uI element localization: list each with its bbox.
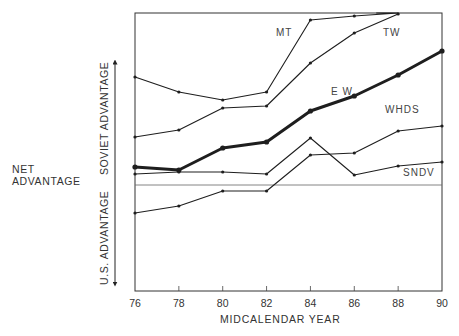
x-tick-label: 76 xyxy=(129,297,141,309)
data-point xyxy=(397,129,400,132)
data-point xyxy=(397,12,400,15)
x-ticks xyxy=(179,286,398,291)
data-point xyxy=(177,128,180,131)
data-point xyxy=(177,204,180,207)
data-point xyxy=(133,172,136,175)
data-point xyxy=(265,172,268,175)
series-label-mt: MT xyxy=(276,27,292,38)
plot-frame xyxy=(135,13,442,291)
data-point xyxy=(309,18,312,21)
x-tick-label: 88 xyxy=(392,297,404,309)
data-point xyxy=(265,90,268,93)
data-point xyxy=(221,170,224,173)
data-point xyxy=(265,189,268,192)
x-tick-label: 86 xyxy=(348,297,360,309)
x-tick-label: 84 xyxy=(305,297,317,309)
x-axis-title: MIDCALENDAR YEAR xyxy=(220,313,341,325)
data-point xyxy=(177,90,180,93)
data-point xyxy=(221,98,224,101)
data-point xyxy=(353,151,356,154)
data-point xyxy=(132,164,137,169)
chart-area xyxy=(0,0,459,336)
series-label-whds: WHDS xyxy=(385,104,420,115)
series-label-sndv: SNDV xyxy=(403,167,435,178)
data-point xyxy=(264,139,269,144)
series-line-tw xyxy=(135,14,398,137)
x-tick-label: 90 xyxy=(436,297,448,309)
x-tick-label: 82 xyxy=(261,297,273,309)
data-point xyxy=(440,160,443,163)
data-point xyxy=(133,75,136,78)
data-point xyxy=(133,135,136,138)
series-label-ew: E W xyxy=(331,86,353,97)
data-point xyxy=(309,136,312,139)
series-line-mt xyxy=(135,13,398,100)
data-point xyxy=(133,211,136,214)
data-point xyxy=(440,124,443,127)
x-tick-label: 78 xyxy=(173,297,185,309)
data-point xyxy=(309,153,312,156)
data-point xyxy=(221,106,224,109)
data-point xyxy=(353,14,356,17)
data-point xyxy=(397,164,400,167)
data-point xyxy=(265,104,268,107)
series-label-tw: TW xyxy=(383,27,401,38)
data-point xyxy=(439,48,444,53)
x-tick-label: 80 xyxy=(217,297,229,309)
data-point xyxy=(220,145,225,150)
data-point xyxy=(221,189,224,192)
data-point xyxy=(309,61,312,64)
data-point xyxy=(308,108,313,113)
data-point xyxy=(353,173,356,176)
data-point xyxy=(177,170,180,173)
data-point xyxy=(353,31,356,34)
data-point xyxy=(396,72,401,77)
